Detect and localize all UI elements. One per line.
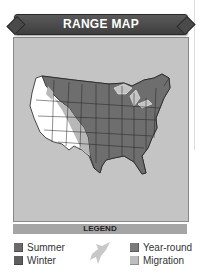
legend-item-migration: Migration [130,255,184,266]
legend-label: Year-round [143,242,192,253]
page-title: RANGE MAP [14,14,188,35]
year-round-swatch-icon [130,243,139,252]
legend-label: Migration [143,255,184,266]
summer-swatch-icon [14,243,23,252]
winter-swatch-icon [14,256,23,265]
legend-item-winter: Winter [14,255,56,266]
bird-silhouette-icon [88,240,112,266]
legend-label: Summer [27,242,65,253]
range-map [13,37,189,222]
us-map-icon [14,38,188,221]
legend-item-year-round: Year-round [130,242,192,253]
migration-swatch-icon [130,256,139,265]
legend-item-summer: Summer [14,242,65,253]
legend-title: LEGEND [13,224,187,234]
legend-label: Winter [27,255,56,266]
